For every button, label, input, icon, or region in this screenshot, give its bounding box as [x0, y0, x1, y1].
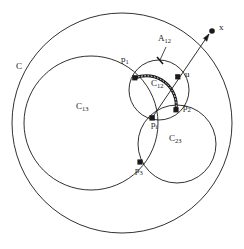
- arc-A12-leader: [160, 47, 166, 60]
- label-point-p3: p3: [135, 166, 143, 175]
- label-point-p2: p2: [183, 103, 191, 112]
- label-circle-C13: C13: [76, 102, 89, 111]
- diagram-canvas: [0, 0, 244, 249]
- label-point-pi: pi: [151, 120, 157, 129]
- circle-C: [12, 13, 232, 233]
- label-point-x: x: [219, 23, 224, 32]
- point-marker-p2: [173, 107, 178, 112]
- circle-C12: [129, 60, 189, 120]
- geometric-diagram-figure: C C13 C12 C23 p1 p2 p3 pi u x A12: [0, 0, 244, 249]
- label-point-p1: p1: [121, 55, 129, 64]
- point-marker-x: [209, 28, 215, 34]
- label-circle-C23: C23: [169, 134, 182, 143]
- label-arc-A12: A12: [158, 34, 171, 43]
- point-marker-u: [175, 74, 180, 79]
- label-circle-C12: C12: [151, 79, 164, 88]
- label-point-u: u: [185, 70, 190, 79]
- point-marker-p1: [132, 75, 137, 80]
- point-marker-p3: [137, 159, 142, 164]
- label-circle-C: C: [16, 62, 22, 71]
